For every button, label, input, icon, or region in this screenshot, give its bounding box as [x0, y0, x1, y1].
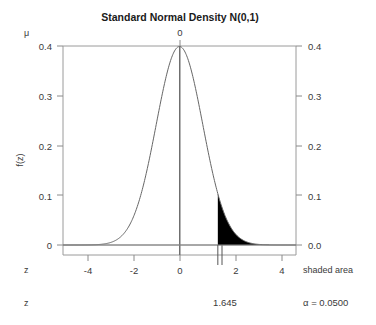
normal-density-plot: Standard Normal Density N(0,1) μ 0 f(z) …	[0, 0, 376, 325]
shaded-tail-region-exact	[218, 194, 296, 245]
data-driven-curve-layer	[0, 0, 376, 325]
